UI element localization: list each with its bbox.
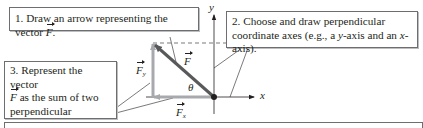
angle-theta-label: θ	[188, 81, 193, 93]
step-1-callout: 1. Draw an arrow representing the vector…	[9, 7, 199, 31]
step-1-vector: F	[46, 26, 53, 40]
step-3-line-1: 3. Represent the vector	[10, 64, 111, 91]
step-3-callout: 3. Represent the vector F as the sum of …	[4, 61, 117, 119]
y-axis-label: y	[209, 1, 214, 13]
step-3-line-2: F as the sum of two	[10, 91, 111, 105]
next-step-callout-partial	[4, 122, 423, 128]
fy-label: Fy	[136, 64, 146, 78]
step-2-callout: 2. Choose and draw perpendicular coordin…	[226, 11, 418, 48]
step-2-line-1: 2. Choose and draw perpendicular	[232, 15, 412, 29]
x-axis-label: x	[260, 89, 265, 101]
vector-f-label: F	[184, 55, 191, 67]
step-1-number: 1.	[15, 12, 23, 24]
origin-dot	[211, 94, 217, 100]
step-2-line-2: coordinate axes (e.g., a y-axis and an x…	[232, 29, 412, 56]
fx-label: Fx	[176, 106, 186, 120]
